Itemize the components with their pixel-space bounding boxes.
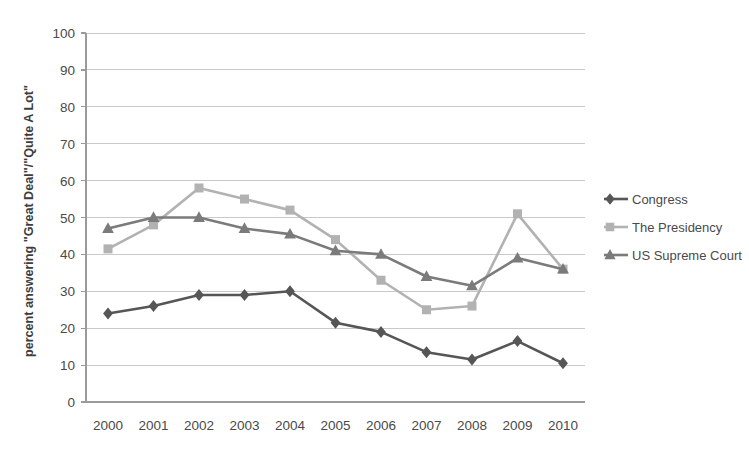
square-marker <box>513 209 522 218</box>
x-axis-tick-label: 2006 <box>366 418 396 433</box>
y-axis-tick-label: 20 <box>60 321 75 336</box>
square-marker <box>104 244 113 253</box>
y-axis-tick-label: 60 <box>60 174 75 189</box>
legend-label: The Presidency <box>632 220 723 235</box>
y-axis-tick-label: 30 <box>60 284 75 299</box>
square-marker <box>240 195 249 204</box>
x-axis-tick-label: 2000 <box>93 418 123 433</box>
y-axis-title: percent answering "Great Deal"/"Quite A … <box>22 85 36 357</box>
y-axis-tick-label: 70 <box>60 137 75 152</box>
square-marker <box>468 302 477 311</box>
y-axis-tick-label: 50 <box>60 211 75 226</box>
x-axis-tick-label: 2004 <box>275 418 306 433</box>
x-axis-tick-label: 2008 <box>457 418 487 433</box>
y-axis-tick-label: 80 <box>60 100 75 115</box>
y-axis-tick-label: 40 <box>60 247 75 262</box>
line-chart: 0102030405060708090100 20002001200220032… <box>0 0 749 458</box>
y-axis-tick-label: 0 <box>67 395 75 410</box>
x-axis-tick-label: 2001 <box>138 418 168 433</box>
legend-label: Congress <box>632 192 688 207</box>
y-axis-tick-label: 90 <box>60 63 75 78</box>
x-axis-tick-label: 2007 <box>411 418 441 433</box>
x-axis-tick-label: 2005 <box>320 418 350 433</box>
square-marker <box>331 235 340 244</box>
square-marker <box>422 305 431 314</box>
square-marker <box>195 183 204 192</box>
y-axis-tick-label: 100 <box>52 26 75 41</box>
square-marker <box>606 223 615 232</box>
x-axis-tick-labels: 2000200120022003200420052006200720082009… <box>93 418 578 433</box>
x-axis-tick-label: 2002 <box>184 418 214 433</box>
legend-label: US Supreme Court <box>632 248 742 263</box>
x-axis-tick-label: 2010 <box>548 418 578 433</box>
square-marker <box>286 206 295 215</box>
x-axis-tick-label: 2009 <box>502 418 532 433</box>
y-axis-tick-label: 10 <box>60 358 75 373</box>
chart-container: 0102030405060708090100 20002001200220032… <box>0 0 749 458</box>
square-marker <box>377 276 386 285</box>
x-axis-tick-label: 2003 <box>229 418 259 433</box>
